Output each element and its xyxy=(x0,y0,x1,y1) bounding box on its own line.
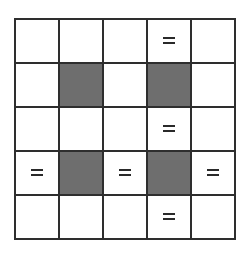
grid-cell[interactable] xyxy=(104,20,148,64)
equals-sign-label: = xyxy=(119,169,120,170)
grid-cell-shaded[interactable] xyxy=(148,152,192,196)
grid-cell[interactable] xyxy=(16,64,60,108)
grid-cell[interactable] xyxy=(16,20,60,64)
equals-sign-label: = xyxy=(163,125,164,126)
grid-cell[interactable] xyxy=(60,20,104,64)
equals-sign-icon: = xyxy=(207,169,219,177)
equals-sign-icon: = xyxy=(163,37,175,45)
grid-cell[interactable] xyxy=(60,196,104,240)
grid-cell[interactable]: = xyxy=(148,20,192,64)
grid-cell[interactable] xyxy=(60,108,104,152)
equals-sign-icon: = xyxy=(119,169,131,177)
grid-cell[interactable]: = xyxy=(192,152,236,196)
equals-sign-icon: = xyxy=(163,125,175,133)
grid-cell[interactable]: = xyxy=(104,152,148,196)
grid-cell[interactable] xyxy=(192,64,236,108)
grid-cell[interactable] xyxy=(16,108,60,152)
grid-cell[interactable] xyxy=(104,64,148,108)
equals-sign-label: = xyxy=(207,169,208,170)
grid-cell[interactable] xyxy=(104,196,148,240)
grid-cell[interactable] xyxy=(192,20,236,64)
equals-sign-label: = xyxy=(163,213,164,214)
grid-cell[interactable] xyxy=(192,108,236,152)
equals-sign-label: = xyxy=(31,169,32,170)
puzzle-grid: ====== xyxy=(14,18,236,240)
grid-cell[interactable]: = xyxy=(148,108,192,152)
equals-sign-icon: = xyxy=(163,213,175,221)
grid-cell[interactable] xyxy=(16,196,60,240)
grid-cell-shaded[interactable] xyxy=(60,64,104,108)
grid-cell-shaded[interactable] xyxy=(60,152,104,196)
equals-sign-icon: = xyxy=(31,169,43,177)
grid-cell[interactable] xyxy=(192,196,236,240)
equals-sign-label: = xyxy=(163,37,164,38)
grid-cell[interactable]: = xyxy=(16,152,60,196)
grid-cell-shaded[interactable] xyxy=(148,64,192,108)
grid-cell[interactable]: = xyxy=(148,196,192,240)
grid-cell[interactable] xyxy=(104,108,148,152)
